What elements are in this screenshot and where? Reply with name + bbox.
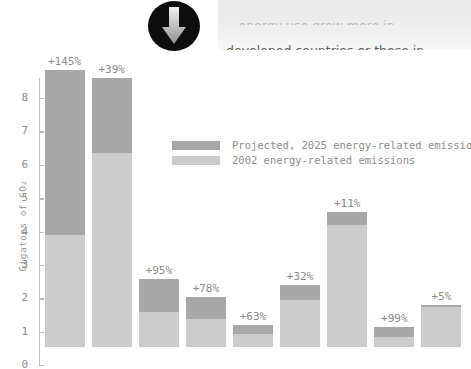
y-axis-tick (39, 365, 44, 366)
y-axis-tick-label: 7 (14, 124, 28, 137)
stacked-bar[interactable] (139, 279, 179, 347)
bar-group[interactable]: +99%Brazil (374, 327, 414, 347)
bar-segment-projected[interactable] (139, 279, 179, 312)
bar-segment-base[interactable] (421, 307, 461, 347)
y-axis-tick-label: 2 (14, 291, 28, 304)
bar-segment-projected[interactable] (280, 285, 320, 300)
bar-growth-label: +95% (146, 264, 173, 277)
down-arrow-icon (148, 1, 200, 51)
bar-growth-label: +99% (381, 312, 408, 325)
bar-segment-base[interactable] (327, 225, 367, 347)
bar-group[interactable]: +11%W Europe (327, 212, 367, 347)
plot-area: +145%China+39%U.S.+95%India+78%Africa+63… (41, 70, 465, 365)
bar-segment-projected[interactable] (186, 297, 226, 319)
bar-growth-label: +78% (193, 282, 220, 295)
bar-growth-label: +32% (287, 270, 314, 283)
bar-growth-label: +145% (48, 55, 81, 68)
bar-group[interactable]: +32%Russia (280, 285, 320, 347)
bar-segment-base[interactable] (92, 153, 132, 347)
stacked-bar[interactable] (186, 297, 226, 347)
legend-label-projected: Projected, 2025 energy-related emissions (232, 139, 471, 151)
question-clipped-line: …energy use grow more in … (226, 17, 461, 25)
bar-group[interactable]: +78%Africa (186, 297, 226, 347)
stacked-bar[interactable] (280, 285, 320, 347)
emissions-bar-chart: Gigatons of CO₂ 012345678 +145%China+39%… (0, 52, 471, 369)
header-band: …energy use grow more in … developed cou… (0, 0, 471, 52)
bar-segment-projected[interactable] (233, 325, 273, 333)
bar-segment-base[interactable] (233, 334, 273, 347)
legend-swatch-projected (172, 141, 220, 150)
legend-swatch-base (172, 156, 220, 165)
bar-segment-projected[interactable] (374, 327, 414, 337)
bar-growth-label: +11% (334, 197, 361, 210)
bar-growth-label: +5% (432, 290, 452, 303)
stacked-bar[interactable] (45, 70, 85, 347)
y-axis-tick-label: 6 (14, 158, 28, 171)
question-line-1: developed countries or those in (226, 43, 424, 50)
bar-group[interactable]: +5%Japan (421, 305, 461, 347)
bar-segment-base[interactable] (139, 312, 179, 347)
stacked-bar[interactable] (233, 325, 273, 347)
bar-group[interactable]: +63%Mexico (233, 325, 273, 347)
y-axis-tick-label: 0 (14, 358, 28, 369)
bar-segment-base[interactable] (374, 337, 414, 347)
stacked-bar[interactable] (327, 212, 367, 347)
bar-growth-label: +63% (240, 310, 267, 323)
bar-segment-base[interactable] (186, 319, 226, 347)
bar-growth-label: +39% (98, 63, 125, 76)
stacked-bar[interactable] (92, 78, 132, 347)
legend-label-base: 2002 energy-related emissions (232, 154, 415, 166)
y-axis-tick-label: 8 (14, 91, 28, 104)
y-axis-tick-label: 1 (14, 325, 28, 338)
bar-group[interactable]: +145%China (45, 70, 85, 347)
header-question-text: …energy use grow more in … developed cou… (218, 0, 471, 50)
y-axis-tick-label: 3 (14, 258, 28, 271)
bar-segment-base[interactable] (280, 300, 320, 347)
bar-segment-projected[interactable] (327, 212, 367, 225)
bar-segment-projected[interactable] (92, 78, 132, 153)
bar-segment-projected[interactable] (45, 70, 85, 235)
y-axis-tick-label: 4 (14, 225, 28, 238)
stacked-bar[interactable] (374, 327, 414, 347)
y-axis: 012345678 (30, 70, 40, 365)
bar-group[interactable]: +95%India (139, 279, 179, 347)
stacked-bar[interactable] (421, 305, 461, 347)
bar-segment-base[interactable] (45, 235, 85, 347)
y-axis-tick-label: 5 (14, 191, 28, 204)
bar-group[interactable]: +39%U.S. (92, 78, 132, 347)
